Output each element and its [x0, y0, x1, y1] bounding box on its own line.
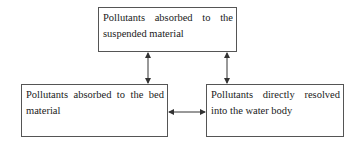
node-bed-material: Pollutants absorbed to the bed material	[21, 84, 168, 137]
node-water-body: Pollutants directly resolved into the wa…	[206, 84, 344, 137]
node-suspended-material: Pollutants absorbed to the suspended mat…	[98, 7, 237, 52]
